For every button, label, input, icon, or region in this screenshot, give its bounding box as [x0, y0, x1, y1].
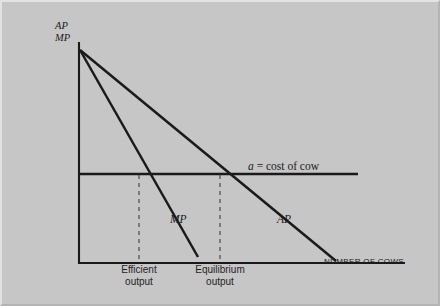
mp-curve-label: MP	[170, 213, 187, 225]
tick-label-efficient-line1: Efficient	[99, 264, 179, 276]
tick-label-efficient-line2: output	[99, 276, 179, 288]
tick-label-equilibrium-line2: output	[174, 276, 266, 288]
cost-of-cow-label: a = cost of cow	[248, 160, 319, 172]
tick-label-equilibrium-line1: Equilibrium	[174, 264, 266, 276]
cost-of-cow-text: = cost of cow	[254, 160, 319, 172]
tick-label-equilibrium-output: Equilibrium output	[174, 264, 266, 288]
x-axis-label: NUMBER OF COWS	[324, 257, 404, 266]
y-axis-label-line1: AP	[55, 20, 70, 32]
ap-curve	[80, 50, 336, 261]
y-axis-label: AP MP	[55, 20, 70, 43]
figure-panel: AP MP a = cost of cow MP AP Efficient ou…	[0, 0, 440, 306]
ap-curve-label: AP	[277, 213, 291, 225]
y-axis-label-line2: MP	[55, 32, 70, 44]
tick-label-efficient-output: Efficient output	[99, 264, 179, 288]
